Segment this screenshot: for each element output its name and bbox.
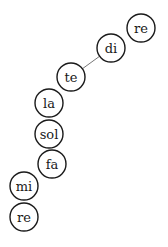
- node-re: re: [10, 203, 38, 231]
- node-label: sol: [40, 127, 59, 142]
- node-label: mi: [16, 179, 33, 194]
- node-label: fa: [46, 157, 59, 172]
- node-label: te: [65, 70, 78, 85]
- node-re: re: [127, 14, 155, 42]
- node-la: la: [35, 89, 63, 117]
- node-label: la: [43, 96, 55, 111]
- node-mi: mi: [10, 172, 38, 200]
- node-sol: sol: [35, 120, 63, 148]
- node-te: te: [57, 63, 85, 91]
- node-di: di: [97, 34, 125, 62]
- node-label: re: [134, 21, 148, 36]
- node-fa: fa: [38, 150, 66, 178]
- edge-te-di: [82, 56, 99, 69]
- node-label: di: [105, 41, 117, 56]
- node-label: re: [17, 210, 31, 225]
- solfege-diagram: reditelasolfamire: [0, 0, 168, 247]
